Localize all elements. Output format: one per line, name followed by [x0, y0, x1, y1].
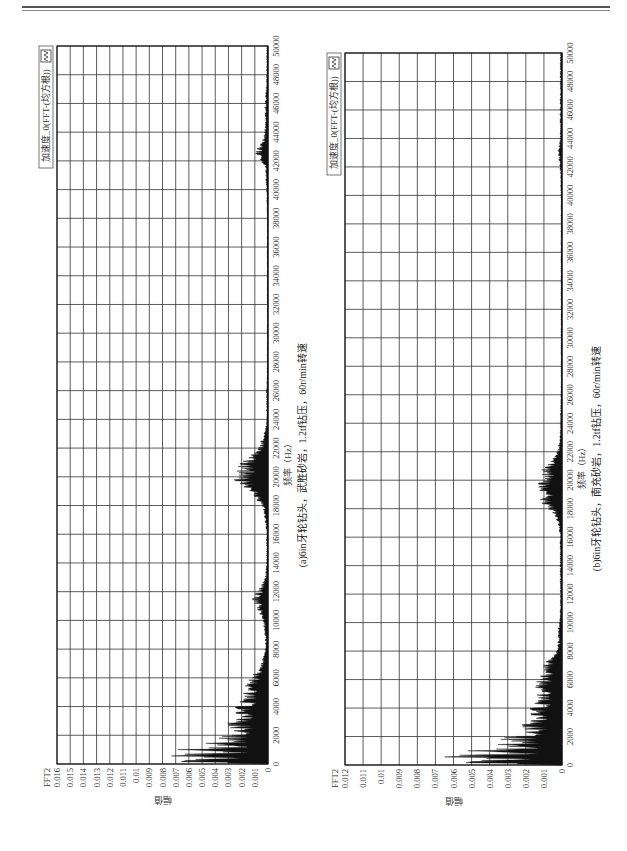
y-tick-labels: 00.0010.0020.0030.0040.0050.0060.0070.00… — [52, 767, 273, 787]
x-tick-label: 50000 — [271, 35, 281, 56]
x-tick-label: 12000 — [565, 583, 575, 604]
y-tick-label: 0.01 — [131, 768, 141, 783]
x-tick-label: 30000 — [271, 323, 281, 344]
x-tick-label: 12000 — [271, 581, 281, 602]
legend: 加速度_0(FFT-(均方根)) — [39, 46, 53, 168]
chart-caption: (a)6in牙轮钻头，武胜砂岩，1.2tf钻压，60r/min转速 — [296, 343, 309, 567]
x-axis-title: 频率（Hz） — [576, 443, 587, 490]
x-tick-label: 18000 — [271, 495, 281, 516]
y-tick-label: 0 — [557, 769, 567, 773]
x-tick-label: 44000 — [565, 128, 575, 149]
x-tick-label: 32000 — [565, 299, 575, 320]
x-tick-label: 26000 — [565, 384, 575, 405]
x-tick-label: 44000 — [271, 122, 281, 143]
x-tick-label: 20000 — [271, 466, 281, 487]
y-tick-label: 0.009 — [394, 769, 404, 788]
y-tick-label: 0.007 — [430, 769, 440, 788]
x-tick-label: 8000 — [565, 643, 575, 660]
x-tick-label: 28000 — [271, 351, 281, 372]
x-tick-label: 20000 — [565, 470, 575, 491]
y-tick-label: 0.016 — [52, 768, 62, 787]
spectrum-area — [171, 46, 268, 764]
x-tick-label: 32000 — [271, 294, 281, 315]
chart-svg: 0200040006000800010000120001400016000180… — [51, 6, 314, 804]
chart-a: 0200040006000800010000120001400016000180… — [51, 6, 314, 804]
y-tick-label: 0.006 — [449, 769, 459, 788]
y-tick-label: 0.006 — [184, 768, 194, 787]
y-tick-label: 0.012 — [340, 769, 350, 788]
y-tick-label: 0.011 — [358, 769, 368, 788]
x-tick-label: 38000 — [565, 213, 575, 234]
y-axis-title: 幅值 — [154, 795, 172, 806]
y-tick-label: 0.004 — [210, 767, 220, 787]
x-tick-label: 34000 — [271, 265, 281, 286]
x-tick-labels: 0200040006000800010000120001400016000180… — [271, 35, 281, 766]
x-tick-labels: 0200040006000800010000120001400016000180… — [565, 42, 575, 767]
x-tick-label: 14000 — [565, 555, 575, 576]
y-tick-label: 0.004 — [485, 768, 495, 788]
x-tick-label: 8000 — [271, 641, 281, 658]
x-tick-label: 24000 — [565, 413, 575, 434]
x-tick-label: 36000 — [271, 236, 281, 257]
x-tick-label: 48000 — [565, 71, 575, 92]
x-tick-label: 22000 — [271, 437, 281, 458]
x-tick-label: 24000 — [271, 409, 281, 430]
x-tick-label: 10000 — [271, 610, 281, 631]
legend-label: 加速度_0(FFT-(均方根)) — [40, 69, 51, 162]
x-tick-label: 34000 — [565, 270, 575, 291]
x-tick-label: 0 — [565, 763, 575, 767]
x-tick-label: 2000 — [565, 728, 575, 745]
y-tick-label: 0.01 — [376, 769, 386, 784]
x-tick-label: 2000 — [271, 727, 281, 744]
y-tick-label: 0.008 — [412, 769, 422, 788]
x-tick-label: 38000 — [271, 208, 281, 229]
legend: 加速度_0(FFT-(均方根)) — [327, 53, 341, 175]
x-tick-label: 30000 — [565, 327, 575, 348]
x-tick-label: 46000 — [565, 99, 575, 120]
x-tick-label: 4000 — [271, 698, 281, 715]
y-tick-label: 0 — [263, 768, 273, 772]
y-tick-label: 0.001 — [539, 769, 549, 788]
grid — [57, 46, 268, 764]
x-tick-label: 4000 — [565, 700, 575, 717]
x-tick-label: 40000 — [565, 185, 575, 206]
x-tick-label: 50000 — [565, 42, 575, 63]
x-tick-label: 42000 — [271, 150, 281, 171]
x-tick-label: 18000 — [565, 498, 575, 519]
spectrum-area — [445, 53, 563, 765]
grid — [345, 53, 562, 765]
legend-label: 加速度_0(FFT-(均方根)) — [328, 76, 339, 169]
y-tick-label: 0.003 — [503, 769, 513, 788]
x-tick-label: 6000 — [271, 669, 281, 686]
y-tick-label: 0.011 — [118, 768, 128, 787]
x-axis-title: 频率（Hz） — [282, 439, 293, 486]
y-tick-label: 0.009 — [144, 768, 154, 787]
y-tick-label: 0.002 — [237, 768, 247, 787]
x-tick-label: 16000 — [271, 524, 281, 545]
x-tick-label: 14000 — [271, 552, 281, 573]
y-tick-label: 0.001 — [250, 768, 260, 787]
chart-svg: 0200040006000800010000120001400016000180… — [339, 13, 608, 805]
x-tick-label: 42000 — [565, 156, 575, 177]
y-tick-label: 0.003 — [223, 768, 233, 787]
x-tick-label: 28000 — [565, 356, 575, 377]
y-tick-labels: 00.0010.0020.0030.0040.0050.0060.0070.00… — [340, 768, 567, 788]
y-axis-title: 幅值 — [445, 796, 463, 807]
y-tick-label: 0.005 — [467, 769, 477, 788]
x-tick-label: 22000 — [565, 441, 575, 462]
x-tick-label: 48000 — [271, 64, 281, 85]
y-tick-label: 0.012 — [105, 768, 115, 787]
y-tick-label: 0.005 — [197, 768, 207, 787]
x-tick-label: 10000 — [565, 612, 575, 633]
x-tick-label: 6000 — [565, 671, 575, 688]
waveform-icon — [41, 50, 51, 62]
y-tick-label: 0.015 — [65, 768, 75, 787]
x-tick-label: 36000 — [565, 242, 575, 263]
x-tick-label: 16000 — [565, 527, 575, 548]
chart-caption: (b)6in牙轮钻头，南充砂岩，1.2tf钻压，60r/min转速 — [590, 346, 603, 571]
chart-b: 0200040006000800010000120001400016000180… — [339, 13, 608, 805]
x-tick-label: 0 — [271, 762, 281, 766]
y-tick-label: 0.014 — [78, 767, 88, 787]
x-tick-label: 40000 — [271, 179, 281, 200]
y-unit-label: FFT2 — [42, 768, 52, 787]
